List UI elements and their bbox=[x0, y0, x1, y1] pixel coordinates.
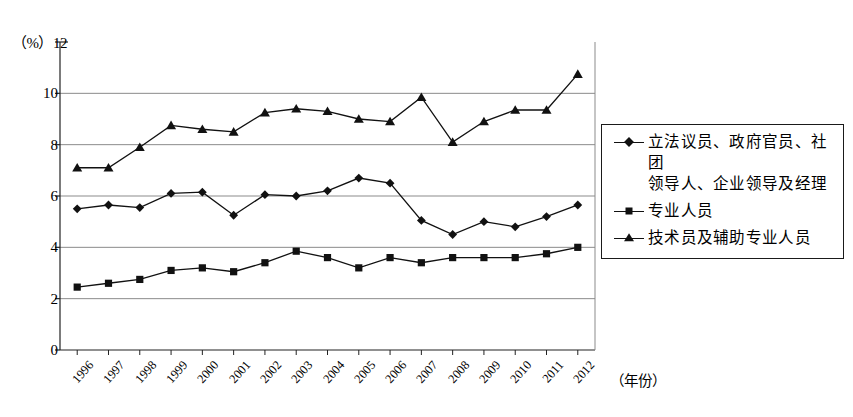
series-line-square bbox=[77, 247, 578, 287]
data-point-diamond bbox=[73, 204, 82, 213]
data-point-triangle bbox=[479, 117, 489, 126]
y-tick-label: 8 bbox=[51, 136, 59, 153]
legend-label-officials-line2: 领导人、企业领导及经理 bbox=[648, 175, 827, 193]
y-tick-label: 2 bbox=[51, 290, 59, 307]
data-point-diamond bbox=[104, 201, 113, 210]
data-point-diamond bbox=[292, 192, 301, 201]
data-point-square bbox=[386, 254, 393, 261]
data-point-square bbox=[574, 244, 581, 251]
data-point-diamond bbox=[511, 222, 520, 231]
data-point-square bbox=[324, 254, 331, 261]
legend-label-officials-line1: 立法议员、政府官员、社团 bbox=[648, 133, 827, 172]
data-point-square bbox=[167, 267, 174, 274]
data-point-diamond bbox=[573, 201, 582, 210]
data-point-square bbox=[105, 280, 112, 287]
data-point-triangle bbox=[166, 121, 176, 130]
data-point-diamond bbox=[167, 189, 176, 198]
legend-label-professionals: 专业人员 bbox=[648, 201, 835, 222]
triangle-marker-icon bbox=[612, 229, 646, 248]
data-point-square bbox=[261, 259, 268, 266]
data-point-square bbox=[480, 254, 487, 261]
data-point-diamond bbox=[261, 190, 270, 199]
legend-item-officials: 立法议员、政府官员、社团领导人、企业领导及经理 bbox=[612, 132, 835, 195]
data-point-diamond bbox=[135, 203, 144, 212]
data-point-square bbox=[136, 276, 143, 283]
data-point-square bbox=[418, 259, 425, 266]
y-axis-tick-labels: 0246810 bbox=[20, 0, 58, 417]
data-point-square bbox=[449, 254, 456, 261]
square-marker-icon bbox=[612, 202, 646, 221]
line-chart: （%）12 0246810 19961997199819992000200120… bbox=[0, 0, 853, 417]
data-point-square bbox=[230, 268, 237, 275]
legend-item-professionals: 专业人员 bbox=[612, 201, 835, 222]
y-tick-label: 6 bbox=[51, 188, 59, 205]
data-point-diamond bbox=[542, 212, 551, 221]
series-line-triangle bbox=[77, 74, 578, 168]
data-point-diamond bbox=[354, 174, 363, 183]
y-tick-label: 4 bbox=[51, 239, 59, 256]
chart-legend: 立法议员、政府官员、社团领导人、企业领导及经理 专业人员 技术员及辅助专业人员 bbox=[601, 124, 844, 259]
y-tick-label: 10 bbox=[43, 85, 58, 102]
y-tick-label: 0 bbox=[51, 342, 59, 359]
data-point-square bbox=[199, 264, 206, 271]
data-point-square bbox=[355, 264, 362, 271]
data-point-diamond bbox=[323, 186, 332, 195]
data-point-diamond bbox=[448, 230, 457, 239]
x-axis-title: （年份） bbox=[610, 369, 666, 390]
data-point-triangle bbox=[291, 104, 301, 113]
data-point-triangle bbox=[135, 142, 145, 151]
legend-label-officials: 立法议员、政府官员、社团领导人、企业领导及经理 bbox=[648, 132, 835, 195]
legend-item-technicians: 技术员及辅助专业人员 bbox=[612, 228, 835, 249]
legend-label-technicians: 技术员及辅助专业人员 bbox=[648, 228, 835, 249]
data-point-square bbox=[74, 284, 81, 291]
data-point-square bbox=[512, 254, 519, 261]
data-point-diamond bbox=[480, 217, 489, 226]
diamond-marker-icon bbox=[612, 133, 646, 152]
data-point-square bbox=[293, 248, 300, 255]
data-point-square bbox=[543, 250, 550, 257]
data-point-triangle bbox=[448, 137, 458, 146]
data-point-triangle bbox=[573, 69, 583, 78]
